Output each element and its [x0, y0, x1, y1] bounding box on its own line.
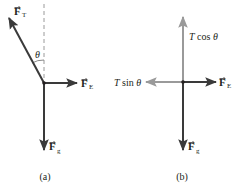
svg-text:E: E	[89, 83, 93, 91]
origin-point	[42, 81, 46, 85]
gravity-force-label-b: F g	[188, 140, 200, 155]
svg-text:F: F	[14, 5, 21, 17]
panel-a-caption: (a)	[39, 171, 50, 183]
horizontal-component-label: T sin θ	[114, 77, 141, 88]
svg-text:E: E	[227, 82, 231, 90]
vertical-component-label: T cos θ	[189, 31, 218, 42]
origin-point-b	[181, 80, 185, 84]
panel-b-caption: (b)	[176, 171, 188, 183]
svg-text:F: F	[81, 77, 88, 89]
svg-text:F: F	[49, 140, 56, 152]
tension-vector-label: F T	[14, 5, 27, 19]
electric-force-label-b: F E	[219, 76, 231, 90]
svg-text:T: T	[22, 11, 27, 19]
panel-b: T cos θ T sin θ F E F g (b)	[114, 17, 231, 183]
panel-a: θ F T F E F g (a)	[9, 4, 93, 183]
gravity-force-label: F g	[49, 140, 61, 155]
free-body-diagram: θ F T F E F g (a) T cos θ	[0, 0, 234, 186]
svg-text:g: g	[196, 147, 200, 155]
svg-text:F: F	[188, 140, 195, 152]
angle-theta-label: θ	[35, 49, 40, 60]
svg-text:g: g	[57, 147, 61, 155]
electric-force-label: F E	[81, 77, 93, 91]
svg-text:F: F	[219, 76, 226, 88]
